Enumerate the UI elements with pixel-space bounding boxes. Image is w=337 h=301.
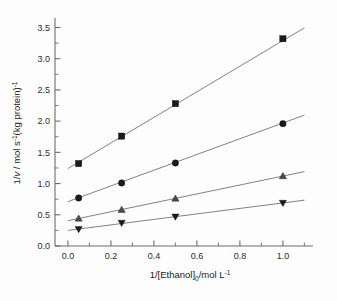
- y-tick-label: 3.0: [37, 54, 50, 64]
- y-axis-title: 1/v / mol s-1(kg protein)-1: [11, 81, 22, 184]
- y-tick-label: 0.0: [37, 241, 50, 251]
- data-point-series-1: [119, 133, 125, 139]
- data-point-series-1: [280, 36, 286, 42]
- x-axis-title: 1/[Ethanol]0/mol L-1: [150, 269, 231, 282]
- y-tick-label: 3.5: [37, 23, 50, 33]
- data-point-markers: [75, 36, 286, 233]
- data-point-series-1: [76, 160, 82, 166]
- x-tick-label: 0.4: [148, 251, 161, 261]
- x-tick-label: 0.2: [105, 251, 118, 261]
- chart-container: 0.00.51.01.52.02.53.03.5 0.00.20.40.60.8…: [0, 0, 337, 301]
- data-point-series-2: [280, 120, 286, 126]
- regression-lines: [68, 28, 305, 231]
- y-axis-tick-labels: 0.00.51.01.52.02.53.03.5: [37, 23, 50, 252]
- scatter-plot-canvas: 0.00.51.01.52.02.53.03.5 0.00.20.40.60.8…: [0, 0, 337, 301]
- x-axis-tick-labels: 0.00.20.40.60.81.0: [62, 251, 290, 261]
- y-tick-label: 2.5: [37, 85, 50, 95]
- regression-line-series-3: [68, 172, 305, 221]
- regression-line-series-4: [68, 200, 305, 230]
- data-point-series-2: [118, 180, 124, 186]
- x-tick-label: 0.8: [234, 251, 247, 261]
- y-tick-label: 1.5: [37, 148, 50, 158]
- y-tick-label: 2.0: [37, 116, 50, 126]
- regression-line-series-2: [68, 115, 305, 202]
- x-tick-label: 1.0: [277, 251, 290, 261]
- x-tick-label: 0.0: [62, 251, 75, 261]
- data-point-series-2: [75, 195, 81, 201]
- y-tick-label: 0.5: [37, 210, 50, 220]
- regression-line-series-1: [68, 28, 305, 169]
- y-tick-label: 1.0: [37, 179, 50, 189]
- x-tick-label: 0.6: [191, 251, 204, 261]
- data-point-series-1: [172, 101, 178, 107]
- data-point-series-2: [172, 160, 178, 166]
